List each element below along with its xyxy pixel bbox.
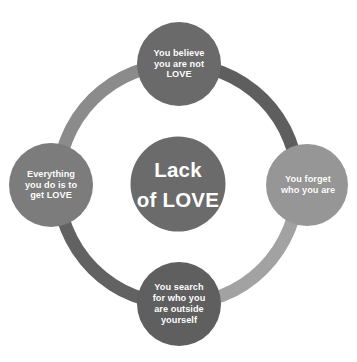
center-circle [131,137,226,232]
node-circle-right [266,144,348,226]
node-circle-top [137,22,221,106]
node-circle-bottom [137,262,221,346]
node-circle-left [9,143,93,227]
cycle-diagram: You believe you are not LOVE You forget … [0,0,357,362]
diagram-canvas [0,0,357,362]
